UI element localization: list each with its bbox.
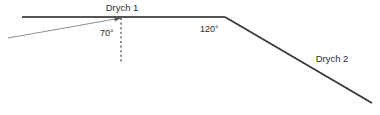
- mirror-2-label: Drych 2: [316, 53, 349, 64]
- angle-between-mirrors-label: 120°: [200, 24, 219, 34]
- angle-of-incidence-label: 70°: [100, 28, 114, 38]
- ray-diagram-container: Drych 1 Drych 2 70° 120°: [0, 0, 380, 115]
- ray-diagram-canvas: Drych 1 Drych 2 70° 120°: [0, 0, 380, 115]
- mirror-2-line: [225, 17, 372, 103]
- mirror-1-label: Drych 1: [106, 2, 139, 13]
